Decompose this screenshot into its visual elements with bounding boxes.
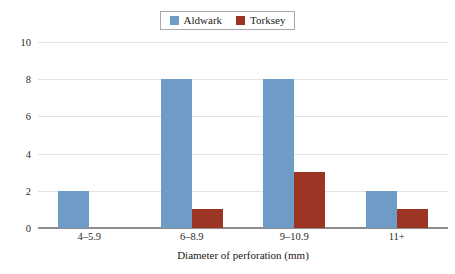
x-axis-title: Diameter of perforation (mm) [38, 249, 448, 261]
y-tick-label-2: 2 [26, 185, 31, 196]
y-tick-label-8: 8 [26, 74, 31, 85]
x-tick-label-3: 11+ [346, 231, 449, 242]
bar-aldwark-3[interactable] [366, 191, 397, 228]
x-tick-label-0: 4–5.9 [38, 231, 141, 242]
x-tick-label-2: 9–10.9 [243, 231, 346, 242]
bar-torksey-3[interactable] [397, 209, 428, 228]
bar-group-2 [243, 42, 346, 228]
bar-torksey-1[interactable] [192, 209, 223, 228]
x-tick-label-1: 6–8.9 [141, 231, 244, 242]
bar-aldwark-2[interactable] [263, 79, 294, 228]
legend-item-aldwark[interactable]: Aldwark [170, 14, 223, 26]
y-tick-label-6: 6 [26, 111, 31, 122]
legend-label-torksey: Torksey [250, 14, 285, 26]
bar-aldwark-1[interactable] [161, 79, 192, 228]
legend-swatch-icon-torksey [236, 16, 245, 25]
plot-area: 10 8 6 4 2 0 [38, 42, 448, 228]
legend-box: Aldwark Torksey [160, 11, 296, 30]
legend-label-aldwark: Aldwark [184, 14, 223, 26]
bar-group-0 [38, 42, 141, 228]
chart-legend: Aldwark Torksey [0, 11, 455, 30]
bar-aldwark-0[interactable] [58, 191, 89, 228]
x-axis-tick-labels: 4–5.9 6–8.9 9–10.9 11+ [38, 231, 448, 242]
bar-group-3 [346, 42, 449, 228]
y-tick-label-10: 10 [21, 37, 32, 48]
y-tick-label-4: 4 [26, 148, 31, 159]
legend-item-torksey[interactable]: Torksey [236, 14, 285, 26]
bar-torksey-2[interactable] [294, 172, 325, 228]
legend-swatch-icon-aldwark [170, 16, 179, 25]
y-tick-label-0: 0 [26, 223, 31, 234]
bar-chart: Aldwark Torksey 10 8 6 4 2 0 4–5.9 6–8.9… [0, 0, 455, 274]
bars-layer [38, 42, 448, 228]
bar-group-1 [141, 42, 244, 228]
